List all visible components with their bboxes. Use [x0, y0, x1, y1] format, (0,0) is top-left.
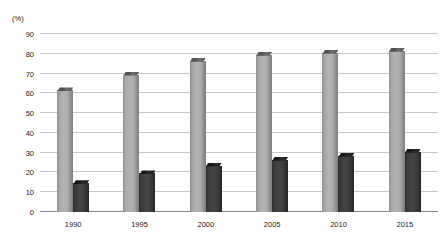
x-axis-tick-labels: 199019952000200520102015: [40, 216, 438, 236]
bar-body: [206, 166, 222, 212]
bar-body: [57, 90, 73, 212]
bar-top-cap: [139, 170, 155, 174]
bar-top-cap: [338, 153, 354, 157]
y-axis-tick-labels: 0102030405060708090: [0, 34, 36, 212]
bar-body: [389, 51, 405, 212]
bar-group: [173, 34, 239, 212]
bar-group: [106, 34, 172, 212]
bar-series-1-2000: [190, 58, 206, 212]
x-axis-tick-label: 1990: [65, 220, 82, 229]
y-axis-unit-label: (%): [12, 14, 24, 23]
bar-top-cap: [57, 87, 73, 91]
plot-area: [40, 34, 438, 212]
y-axis-tick-label: 80: [26, 49, 34, 58]
y-axis-tick-label: 10: [26, 188, 34, 197]
bar-body: [322, 53, 338, 212]
bar-top-cap: [322, 50, 338, 54]
bar-series-2-1995: [139, 170, 155, 212]
bar-body: [73, 183, 89, 212]
y-axis-tick-label: 50: [26, 109, 34, 118]
bar-series-2-2010: [338, 153, 354, 212]
x-axis-tick-label: 1995: [131, 220, 148, 229]
bar-top-cap: [73, 180, 89, 184]
bar-top-cap: [272, 157, 288, 161]
bar-top-cap: [389, 48, 405, 52]
bar-top-cap: [123, 72, 139, 76]
x-axis-tick-label: 2000: [197, 220, 214, 229]
bar-group: [40, 34, 106, 212]
bar-body: [272, 160, 288, 212]
x-axis-tick-label: 2005: [264, 220, 281, 229]
bar-group: [305, 34, 371, 212]
bar-body: [123, 75, 139, 212]
bar-series-1-1995: [123, 72, 139, 212]
bar-chart: (%) 0102030405060708090 1990199520002005…: [0, 0, 445, 248]
y-axis-tick-label: 20: [26, 168, 34, 177]
bar-series-1-1990: [57, 87, 73, 212]
bar-body: [139, 173, 155, 212]
bar-series-2-2005: [272, 157, 288, 212]
bar-groups: [40, 34, 438, 212]
bar-series-2-1990: [73, 180, 89, 212]
x-axis-tick-label: 2010: [330, 220, 347, 229]
bar-series-2-2015: [405, 149, 421, 212]
x-axis-tick-label: 2015: [396, 220, 413, 229]
bar-body: [405, 152, 421, 212]
bar-series-1-2010: [322, 50, 338, 212]
bar-top-cap: [190, 58, 206, 62]
y-axis-tick-label: 60: [26, 89, 34, 98]
bar-body: [338, 156, 354, 212]
bar-series-1-2015: [389, 48, 405, 212]
bar-top-cap: [405, 149, 421, 153]
y-axis-tick-label: 0: [30, 208, 34, 217]
bar-top-cap: [256, 52, 272, 56]
bar-top-cap: [206, 163, 222, 167]
bar-series-1-2005: [256, 52, 272, 212]
bar-group: [372, 34, 438, 212]
y-axis-tick-label: 90: [26, 30, 34, 39]
bar-body: [190, 61, 206, 212]
bar-series-2-2000: [206, 163, 222, 212]
y-axis-tick-label: 40: [26, 128, 34, 137]
y-axis-tick-label: 70: [26, 69, 34, 78]
y-axis-tick-label: 30: [26, 148, 34, 157]
bar-group: [239, 34, 305, 212]
bar-body: [256, 55, 272, 212]
